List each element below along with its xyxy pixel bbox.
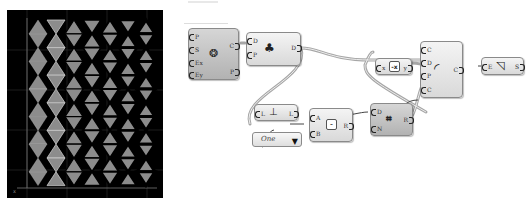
input-port-n[interactable]: N [377,125,382,132]
input-port-x[interactable]: x [382,64,385,71]
output-port-l[interactable]: L [289,110,293,117]
output-port-s[interactable]: S [515,63,519,70]
triangle-pattern-preview: x [7,10,163,198]
output-port-p[interactable]: P [230,68,234,75]
output-port-r[interactable]: R [343,122,348,129]
explode-node[interactable]: D P D ♣ [246,32,301,66]
surface-icon: ◹ [496,59,504,72]
input-port-p[interactable]: P [427,72,431,79]
input-port-a[interactable]: A [316,114,320,121]
input-port-s[interactable]: S [195,46,199,53]
dropdown-value: One [261,135,275,143]
chevron-down-icon[interactable]: ▼ [292,135,298,148]
input-port-p[interactable]: P [195,33,199,40]
value-list-dropdown[interactable]: One ▼ [252,132,302,147]
input-port-e[interactable]: E [488,63,492,70]
offset-curve-node[interactable]: C D P C C ◜ [420,41,463,98]
list-length-icon: ⊥ [269,106,278,117]
list-length-node[interactable]: L L ⊥ [254,104,298,121]
explode-icon: ♣ [264,41,275,55]
axis-label: x [13,188,16,194]
rhino-viewport[interactable]: x [7,10,163,198]
output-port-c[interactable]: C [229,42,234,49]
series-node[interactable]: D N R ⌗ [370,103,413,136]
series-icon: ⌗ [386,113,392,125]
input-port-ey[interactable]: Ey [195,71,203,78]
input-port-ex[interactable]: Ex [195,59,203,66]
output-port-r[interactable]: R [403,116,408,123]
input-port-b[interactable]: B [316,130,320,137]
output-port-d[interactable]: D [291,44,296,51]
input-port-l[interactable]: L [261,110,265,117]
grasshopper-canvas[interactable]: P S Ex Ey C P ❂ D P D ♣ L L ⊥ One ▼ A B … [170,0,530,204]
input-port-c2[interactable]: C [427,86,432,93]
boundary-surface-node[interactable]: E S ◹ [481,57,524,75]
negate-expression-node[interactable]: x y -x [375,58,412,75]
input-port-d[interactable]: D [377,108,382,115]
offset-icon: ◜ [434,60,439,76]
hexagon-pattern-node[interactable]: P S Ex Ey C P ❂ [188,28,239,80]
hexagon-grid-icon: ❂ [209,47,218,60]
negate-icon: -x [389,61,400,72]
output-port-c[interactable]: C [453,66,458,73]
input-port-d[interactable]: D [427,59,432,66]
input-port-d[interactable]: D [253,37,258,44]
input-port-p[interactable]: P [253,51,257,58]
output-port-y[interactable]: y [404,64,407,71]
subtraction-node[interactable]: A B R - [309,108,353,142]
minus-icon: - [326,119,337,130]
input-port-c[interactable]: C [427,46,432,53]
